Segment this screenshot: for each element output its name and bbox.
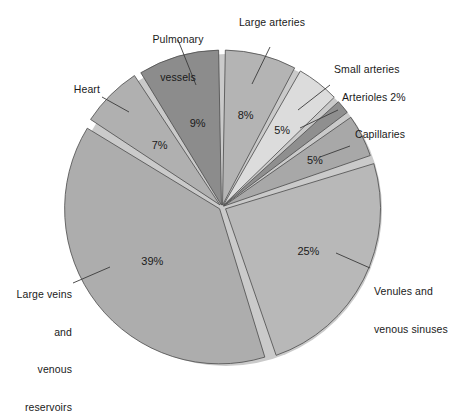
slice-value-pulmonary-vessels: 9%	[190, 117, 206, 129]
label-large-arteries: Large arteries	[225, 16, 319, 29]
label-large-veins-line1: Large veins	[2, 288, 72, 301]
label-pulmonary-vessels-line2: vessels	[128, 71, 228, 84]
slice-value-heart: 7%	[152, 139, 168, 151]
slice-value-large-arteries: 8%	[238, 109, 254, 121]
label-small-arteries: Small arteries	[334, 63, 454, 76]
label-heart: Heart	[38, 83, 100, 96]
slice-value-large-veins-venous-reservoirs: 39%	[141, 255, 163, 267]
label-venules-venous-sinuses: Venules and venous sinuses	[374, 260, 470, 360]
slice-value-capillaries: 5%	[307, 154, 323, 166]
label-large-veins-line3: venous	[2, 363, 72, 376]
label-arterioles: Arterioles 2%	[342, 91, 462, 104]
label-venules-line2: venous sinuses	[374, 323, 470, 336]
label-capillaries: Capillaries	[355, 128, 465, 141]
label-venules-line1: Venules and	[374, 285, 470, 298]
label-large-veins-line4: reservoirs	[2, 401, 72, 414]
label-large-veins-venous-reservoirs: Large veins and venous reservoirs	[2, 263, 72, 415]
slice-value-small-arteries: 5%	[274, 124, 290, 136]
label-large-veins-line2: and	[2, 326, 72, 339]
label-pulmonary-vessels: Pulmonary vessels	[128, 8, 228, 108]
label-pulmonary-vessels-line1: Pulmonary	[128, 33, 228, 46]
slice-value-venules-venous-sinuses: 25%	[297, 245, 319, 257]
